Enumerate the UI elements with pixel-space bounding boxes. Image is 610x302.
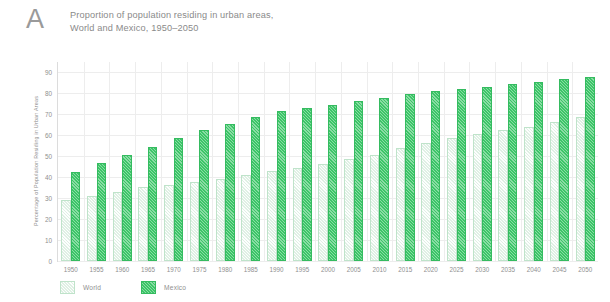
bar-mexico-1990[interactable] (277, 111, 287, 261)
bar-world-1980[interactable] (216, 179, 226, 261)
gridline-vertical (161, 62, 162, 261)
gridline-vertical (469, 62, 470, 261)
bar-mexico-1980[interactable] (225, 124, 235, 261)
bar-world-1955[interactable] (87, 196, 97, 261)
figure-panel-a: A Proportion of population residing in u… (0, 0, 610, 302)
x-axis-tick-label: 2020 (424, 266, 438, 273)
bar-world-1995[interactable] (293, 168, 303, 261)
plot-area: 0102030405060708090 19501955196019651970… (57, 62, 598, 262)
chart-legend: WorldMexico (60, 281, 226, 294)
bar-group (293, 62, 312, 261)
x-axis-tick-label: 1975 (192, 266, 206, 273)
bar-mexico-1985[interactable] (251, 117, 261, 261)
bar-mexico-2005[interactable] (354, 101, 364, 261)
y-axis-tick-label: 80 (45, 90, 52, 97)
bar-world-2030[interactable] (473, 134, 483, 261)
bar-mexico-2015[interactable] (405, 94, 415, 261)
bar-group (396, 62, 415, 261)
chart-title-line-1: Proportion of population residing in urb… (70, 9, 490, 22)
x-axis-tick-label: 1980 (218, 266, 232, 273)
gridline-vertical (495, 62, 496, 261)
y-axis-tick-label: 40 (45, 174, 52, 181)
bar-group (87, 62, 106, 261)
bar-world-2020[interactable] (421, 143, 431, 261)
bar-world-1970[interactable] (164, 185, 174, 261)
gridline-vertical (238, 62, 239, 261)
bar-mexico-1950[interactable] (71, 172, 81, 261)
x-axis-tick-label: 1955 (90, 266, 104, 273)
bar-mexico-1960[interactable] (122, 155, 132, 261)
bar-mexico-2045[interactable] (559, 79, 569, 261)
bar-mexico-2000[interactable] (328, 105, 338, 261)
bar-mexico-2010[interactable] (379, 98, 389, 261)
bar-mexico-2020[interactable] (431, 91, 441, 261)
gridline-vertical (418, 62, 419, 261)
gridline-vertical (109, 62, 110, 261)
bar-world-1965[interactable] (138, 187, 148, 261)
chart-title: Proportion of population residing in urb… (70, 9, 490, 35)
bar-world-2025[interactable] (447, 138, 457, 261)
x-axis-tick-label: 1995 (295, 266, 309, 273)
bar-world-2040[interactable] (524, 127, 534, 261)
y-axis-tick-label: 10 (45, 237, 52, 244)
y-axis-tick-label: 60 (45, 132, 52, 139)
bar-mexico-2040[interactable] (534, 82, 544, 261)
x-axis-tick-label: 2050 (578, 266, 592, 273)
x-axis-tick-label: 1965 (141, 266, 155, 273)
bar-group (113, 62, 132, 261)
gridline-vertical (289, 62, 290, 261)
panel-letter: A (26, 4, 45, 34)
gridline-vertical (341, 62, 342, 261)
gridline-vertical (187, 62, 188, 261)
bar-world-2050[interactable] (576, 117, 586, 261)
gridline-vertical (521, 62, 522, 261)
bar-world-1990[interactable] (267, 171, 277, 261)
bar-group (61, 62, 80, 261)
legend-label-mexico: Mexico (164, 284, 186, 291)
legend-item-world[interactable]: World (60, 281, 101, 294)
gridline-vertical (315, 62, 316, 261)
bar-mexico-2030[interactable] (482, 87, 492, 261)
bar-mexico-1975[interactable] (199, 130, 209, 261)
gridline-vertical (135, 62, 136, 261)
bar-group (216, 62, 235, 261)
x-axis-tick-label: 2040 (527, 266, 541, 273)
gridline-vertical (547, 62, 548, 261)
bar-world-2035[interactable] (498, 130, 508, 261)
y-axis-tick-label: 0 (48, 258, 52, 265)
gridline-vertical (444, 62, 445, 261)
bar-group (138, 62, 157, 261)
bar-mexico-1970[interactable] (174, 138, 184, 261)
bar-mexico-2025[interactable] (457, 89, 467, 261)
bar-group (550, 62, 569, 261)
bar-world-2015[interactable] (396, 148, 406, 261)
bar-group (344, 62, 363, 261)
y-axis-tick-label: 90 (45, 69, 52, 76)
bar-mexico-1995[interactable] (302, 108, 312, 261)
x-axis-tick-label: 1985 (244, 266, 258, 273)
bar-world-1960[interactable] (113, 192, 123, 261)
bar-group (318, 62, 337, 261)
bar-world-2005[interactable] (344, 159, 354, 261)
bar-world-2010[interactable] (370, 155, 380, 261)
bar-world-1985[interactable] (241, 175, 251, 261)
legend-item-mexico[interactable]: Mexico (141, 281, 186, 294)
bar-group (164, 62, 183, 261)
x-axis-tick-label: 2035 (501, 266, 515, 273)
bar-mexico-1965[interactable] (148, 147, 158, 261)
bar-group (498, 62, 517, 261)
x-axis-tick-label: 2015 (398, 266, 412, 273)
bar-group (576, 62, 595, 261)
bar-mexico-1955[interactable] (97, 163, 107, 261)
bar-group (524, 62, 543, 261)
gridline-vertical (572, 62, 573, 261)
bar-group (473, 62, 492, 261)
bar-mexico-2050[interactable] (585, 77, 595, 261)
bar-world-2000[interactable] (318, 164, 328, 261)
y-axis-tick-label: 20 (45, 216, 52, 223)
bar-world-1950[interactable] (61, 200, 71, 261)
bar-world-1975[interactable] (190, 182, 200, 261)
bar-mexico-2035[interactable] (508, 84, 518, 261)
bar-world-2045[interactable] (550, 122, 560, 261)
gridline-vertical (84, 62, 85, 261)
